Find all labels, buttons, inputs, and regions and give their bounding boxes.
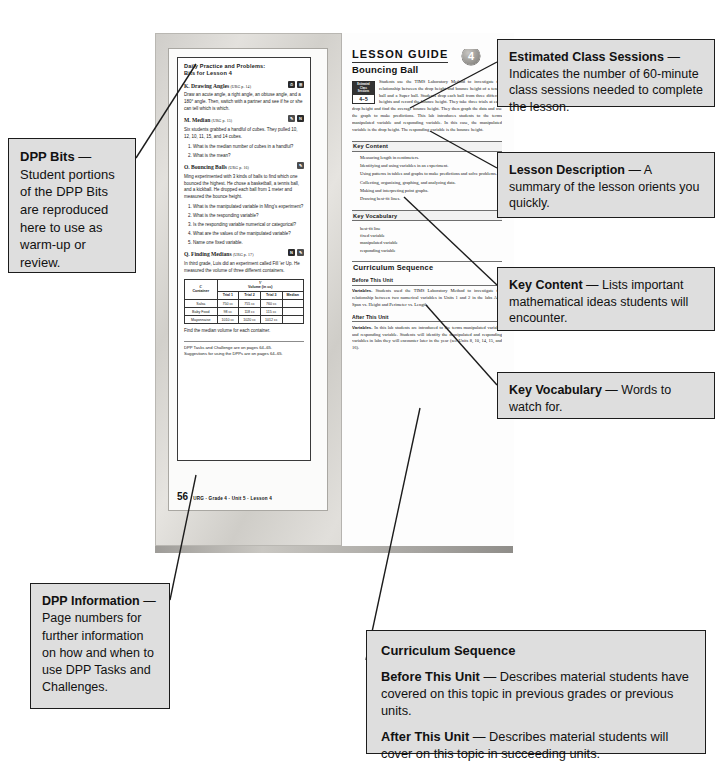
dpp-bit-q-ref: (URG p. 17) [233, 253, 254, 257]
clock-icon: ⏱ [288, 81, 295, 88]
before-this-unit-text: Variables. Students used the TIMS Labora… [352, 288, 502, 308]
before-this-unit-label: Variables. [352, 288, 373, 293]
callout-curriculum-after-dash: — [469, 729, 489, 744]
after-this-unit-body: In this lab students are introduced to t… [352, 325, 502, 350]
dpp-title: Daily Practice and Problems: Bits for Le… [184, 63, 304, 78]
list-item: What is the responding variable? [193, 213, 304, 220]
callout-dppinfo-label: DPP Information [42, 594, 140, 608]
n-icon: N [297, 115, 304, 122]
dpp-bit-m-letter: M. [184, 117, 191, 123]
page-number: 56 [177, 491, 188, 502]
table-row: C Container V Volume (in cc) [185, 279, 304, 292]
page-footer-text: URG · Grade 4 · Unit 5 · Lesson 4 [193, 496, 272, 501]
sessions-caption: Estimated Class Sessions [353, 82, 374, 95]
before-this-unit-body: Students used the TIMS Laboratory Method… [352, 288, 502, 307]
callout-lessondesc-label: Lesson Description [509, 163, 625, 177]
dpp-bit-k-ref: (URG p. 14) [230, 85, 251, 89]
after-this-unit-label: Variables. [352, 325, 373, 330]
calculator-icon: ⊞ [297, 81, 304, 88]
dpp-bits-box: Daily Practice and Problems: Bits for Le… [177, 57, 311, 461]
table-row: Mayonnaise 1010 cc 1020 cc 1012 cc [185, 316, 304, 324]
table-header-trial2: Trial 2 [239, 292, 261, 300]
pencil-icon: ✎ [288, 115, 295, 122]
volume-table: C Container V Volume (in cc) Trial 1 Tri… [184, 279, 304, 325]
dpp-bit-o: ✎ O. Bouncing Balls (URG p. 16) Ming exp… [184, 163, 304, 246]
list-item: What is the manipulated variable in Ming… [193, 204, 304, 211]
cell-trial2: 755 cc [239, 300, 261, 308]
cell-trial1: 1010 cc [217, 316, 239, 324]
dpp-bit-m: ✎ N M. Median (URG p. 15) Six students g… [184, 116, 304, 159]
table-row: Baby Food 98 cc 118 cc 115 cc [185, 308, 304, 316]
lesson-guide-page: LESSON GUIDE Bouncing Ball 4 Estimated C… [341, 33, 514, 546]
list-item: What is the mean? [193, 153, 304, 160]
n-icon: N [288, 249, 295, 256]
list-item: What are the values of the manipulated v… [193, 231, 304, 238]
dpp-bit-q-name: Finding Medians [191, 251, 232, 257]
dpp-bit-m-ref: (URG p. 15) [212, 119, 233, 123]
dpp-bit-k-letter: K. [184, 83, 190, 89]
key-vocabulary-list: best-fit line fixed variable manipulated… [352, 225, 502, 254]
dpp-bit-m-icons: ✎ N [288, 115, 304, 122]
callout-dpp-bits: DPP Bits — Student portions of the DPP B… [8, 138, 136, 273]
callout-sessions-dash: — [664, 50, 680, 64]
list-item: fixed variable [360, 232, 502, 239]
key-content-list: Measuring length in centimeters. Identif… [352, 155, 502, 203]
page-footer: 56 URG · Grade 4 · Unit 5 · Lesson 4 [177, 491, 272, 502]
dpp-bit-m-name: Median [192, 117, 210, 123]
callout-dpp-bits-dash: — [75, 149, 92, 164]
dpp-footer-note: DPP Tasks and Challenge are on pages 64–… [184, 341, 304, 358]
callout-dppinfo-text: Page numbers for further information on … [42, 611, 154, 694]
dpp-bit-m-questions: What is the median number of cubes in a … [184, 144, 304, 160]
after-this-unit-heading: After This Unit [352, 314, 502, 323]
estimated-class-sessions-box: Estimated Class Sessions 4–5 [352, 81, 375, 104]
cell-trial2: 118 cc [239, 308, 261, 316]
lesson-guide-header: LESSON GUIDE Bouncing Ball 4 [352, 49, 502, 79]
list-item: best-fit line [360, 225, 502, 232]
cell-container: Salsa [185, 300, 218, 308]
dpp-bit-q-body: In third grade, Luis did an experiment c… [184, 261, 304, 275]
dpp-bit-o-body: Ming experimented with 3 kinds of balls … [184, 174, 304, 201]
callout-curriculum-before: Before This Unit — Describes material st… [381, 668, 691, 719]
callout-dpp-information: DPP Information — Page numbers for furth… [30, 583, 170, 709]
list-item: Making and interpreting point graphs. [359, 188, 502, 195]
callout-curriculum-before-dash: — [480, 669, 500, 684]
dpp-bit-k: ⏱ ⊞ K. Drawing Angles (URG p. 14) Draw a… [184, 82, 304, 113]
dpp-bit-q: N ✎ Q. Finding Medians (URG p. 17) In th… [184, 250, 304, 335]
dpp-bit-k-icons: ⏱ ⊞ [288, 81, 304, 88]
callout-key-vocabulary: Key Vocabulary — Words to watch for. [497, 372, 715, 419]
cell-median [282, 308, 303, 316]
callout-curriculum-sequence: Curriculum Sequence Before This Unit — D… [366, 630, 706, 754]
list-item: Measuring length in centimeters. [359, 155, 502, 162]
sessions-caption-line3: Sessions [353, 90, 374, 94]
dpp-bit-o-letter: O. [184, 164, 190, 170]
list-item: manipulated variable [360, 239, 502, 246]
dpp-find-median-instruction: Find the median volume for each containe… [184, 328, 304, 335]
list-item: Is the responding variable numerical or … [193, 222, 304, 229]
callout-curriculum-after-label: After This Unit [381, 729, 469, 744]
dpp-bit-o-icons: ✎ [297, 162, 304, 169]
cell-median [282, 316, 303, 324]
list-item: What is the median number of cubes in a … [193, 144, 304, 151]
after-this-unit-text: Variables. In this lab students are intr… [352, 325, 502, 352]
volume-var-label: Volume (in cc) [218, 285, 303, 289]
callout-dpp-bits-text: Student portions of the DPP Bits are rep… [20, 167, 115, 270]
dpp-bit-k-name: Drawing Angles [191, 83, 229, 89]
pencil-icon: ✎ [297, 249, 304, 256]
key-vocabulary-heading: Key Vocabulary [352, 210, 502, 221]
callout-keyvocab-dash: — [602, 383, 621, 397]
cell-container: Baby Food [185, 308, 218, 316]
table-header-trial1: Trial 1 [217, 292, 239, 300]
dpp-bit-o-questions: What is the manipulated variable in Ming… [184, 204, 304, 247]
before-this-unit-heading: Before This Unit [352, 277, 502, 286]
dpp-bit-k-body: Draw an acute angle, a right angle, an o… [184, 92, 304, 112]
callout-curriculum-after: After This Unit — Describes material stu… [381, 728, 691, 762]
table-header-volume: V Volume (in cc) [217, 279, 303, 292]
lesson-guide-content: LESSON GUIDE Bouncing Ball 4 Estimated C… [352, 49, 502, 519]
table-header-container: C Container [185, 279, 218, 300]
callout-sessions-label: Estimated Class Sessions [509, 50, 664, 64]
key-content-heading: Key Content [352, 141, 502, 152]
sessions-value: 4–5 [353, 95, 374, 103]
table-header-median: Median [282, 292, 303, 300]
callout-lessondesc-dash: — [625, 163, 644, 177]
table-header-trial3: Trial 3 [260, 292, 282, 300]
